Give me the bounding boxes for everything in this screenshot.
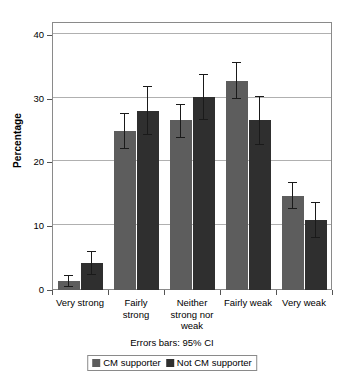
- bar: [137, 111, 159, 290]
- y-tick-label: 30: [18, 94, 44, 104]
- legend-entry: Not CM supporter: [166, 357, 252, 368]
- x-tick-mark: [276, 290, 277, 295]
- y-tick-label: 10: [18, 221, 44, 231]
- x-category-label-line: weak: [155, 320, 229, 332]
- error-bar-cap-upper: [232, 62, 241, 63]
- bar-chart-figure: Percentage 010203040 Very strongFairlyst…: [0, 0, 344, 375]
- error-bar-cap-lower: [143, 134, 152, 135]
- legend-swatch-icon: [166, 359, 174, 367]
- bar: [226, 81, 248, 290]
- error-bar-cap-upper: [288, 182, 297, 183]
- bar: [193, 97, 215, 290]
- error-bar-cap-lower: [288, 208, 297, 209]
- x-tick-mark: [108, 290, 109, 295]
- error-bar-cap-upper: [120, 113, 129, 114]
- error-bar-note: Errors bars: 95% CI: [0, 337, 344, 348]
- x-category-label-line: strong nor: [155, 309, 229, 321]
- error-bar: [81, 251, 103, 275]
- error-bar-cap-upper: [199, 74, 208, 75]
- error-bar: [226, 62, 248, 98]
- error-bar-line: [292, 182, 293, 209]
- error-bar: [249, 96, 271, 145]
- error-bar: [282, 182, 304, 209]
- error-bar-cap-lower: [64, 286, 73, 287]
- y-tick-label: 20: [18, 157, 44, 167]
- error-bar-cap-upper: [64, 275, 73, 276]
- bars-layer: [52, 22, 332, 290]
- error-bar: [170, 104, 192, 138]
- error-bar-cap-lower: [176, 137, 185, 138]
- error-bar-cap-lower: [199, 119, 208, 120]
- error-bar: [193, 74, 215, 121]
- error-bar: [305, 202, 327, 238]
- error-bar-line: [180, 104, 181, 138]
- error-bar-cap-upper: [255, 96, 264, 97]
- legend-entry: CM supporter: [92, 357, 161, 368]
- y-tick-label: 40: [18, 30, 44, 40]
- bar: [282, 196, 304, 290]
- x-tick-mark: [332, 290, 333, 295]
- error-bar-cap-lower: [87, 274, 96, 275]
- x-category-label: Very weak: [267, 297, 341, 309]
- error-bar-cap-upper: [176, 104, 185, 105]
- error-bar-cap-lower: [120, 148, 129, 149]
- error-bar-line: [315, 202, 316, 238]
- error-bar: [114, 113, 136, 149]
- x-category-label-line: Very weak: [267, 297, 341, 309]
- x-tick-mark: [220, 290, 221, 295]
- y-axis-title: Percentage: [12, 91, 23, 191]
- x-tick-mark: [164, 290, 165, 295]
- error-bar-cap-upper: [143, 86, 152, 87]
- error-bar: [137, 86, 159, 135]
- error-bar-line: [236, 62, 237, 98]
- error-bar-cap-upper: [87, 251, 96, 252]
- error-bar-cap-lower: [311, 237, 320, 238]
- bar: [249, 120, 271, 290]
- error-bar-line: [91, 251, 92, 275]
- error-bar-cap-lower: [232, 98, 241, 99]
- error-bar-line: [124, 113, 125, 149]
- error-bar: [58, 275, 80, 286]
- error-bar-line: [259, 96, 260, 145]
- bar: [170, 120, 192, 290]
- error-bar-line: [203, 74, 204, 121]
- bar: [114, 131, 136, 290]
- error-bar-line: [147, 86, 148, 135]
- legend-label: CM supporter: [103, 357, 161, 368]
- y-tick-label: 0: [18, 285, 44, 295]
- legend-swatch-icon: [92, 359, 100, 367]
- x-tick-mark: [52, 290, 53, 295]
- error-bar-cap-upper: [311, 202, 320, 203]
- chart-legend: CM supporterNot CM supporter: [87, 355, 257, 371]
- error-bar-cap-lower: [255, 144, 264, 145]
- legend-label: Not CM supporter: [177, 357, 252, 368]
